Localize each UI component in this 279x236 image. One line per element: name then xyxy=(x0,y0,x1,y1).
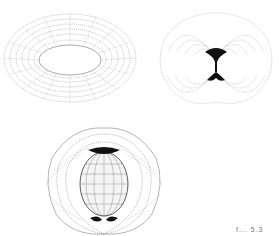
cutaway-surface-icon xyxy=(155,10,277,108)
torus-wireframe-icon xyxy=(2,8,138,108)
nested-surface-icon xyxy=(42,124,166,236)
cutaway-panel xyxy=(155,10,277,108)
torus-panel xyxy=(2,8,138,108)
nested-surface-panel xyxy=(42,124,166,236)
cusp-icon xyxy=(205,48,227,81)
caption-fragment: f... 5.3 xyxy=(236,226,263,233)
